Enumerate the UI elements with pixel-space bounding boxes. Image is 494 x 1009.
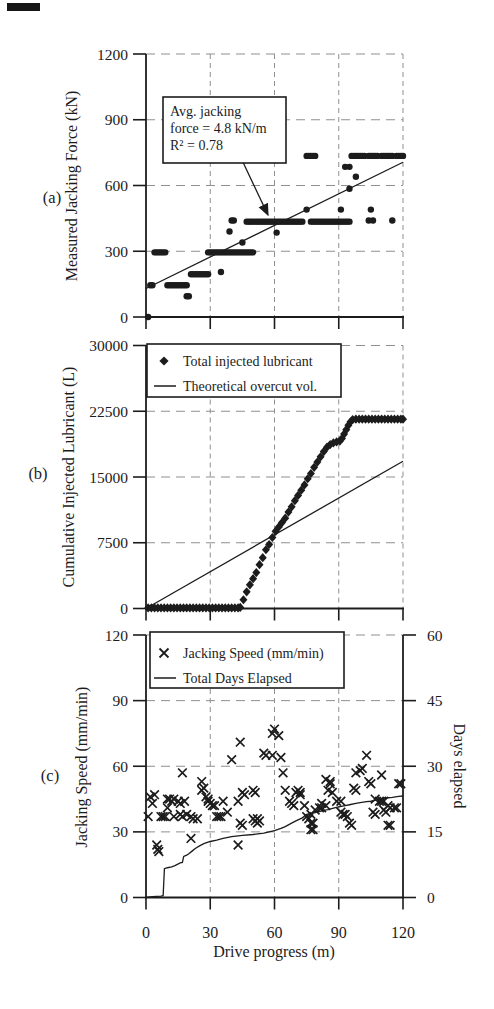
legend-b-item-2: Theoretical overcut vol. [183,379,317,394]
scan-artifact [7,3,40,11]
legend-b: Total injected lubricant Theoretical ove… [147,344,341,397]
panel-a-label: (a) [43,188,61,207]
annotation-line-1: Avg. jacking [170,104,241,119]
b-y-tick-label: 7500 [97,534,128,551]
c-y-tick-label: 120 [105,627,129,644]
a-y-tick-label: 300 [105,243,129,260]
x-axis-title: Drive progress (m) [213,943,335,961]
charts-layer: 0300600900120007500150002250030000030609… [89,46,443,941]
panel-c-label: (c) [41,766,59,785]
annotation-avg-jacking-force: Avg. jacking force = 4.8 kN/m R² = 0.78 [163,97,286,215]
a-y-tick-label: 0 [120,309,128,326]
c-right-axis-title: Days elapsed [450,724,468,809]
c-y-tick-label: 90 [113,692,129,709]
a-gridlines [146,54,403,317]
c-right-tick-label: 60 [427,627,443,644]
x-tick-label: 0 [142,924,150,941]
x-tick-label: 60 [267,924,283,941]
legend-b-item-1: Total injected lubricant [183,354,313,369]
x-tick-label: 120 [391,924,415,941]
b-y-tick-label: 15000 [89,469,128,486]
b-y-tick-label: 0 [120,600,128,617]
legend-c-item-2: Total Days Elapsed [183,671,292,686]
a-y-tick-label: 1200 [97,46,128,63]
x-tick-label: 90 [331,924,347,941]
annotation-line-2: force = 4.8 kN/m [170,121,267,136]
b-series-scatter-diamond [144,415,407,613]
panel-b-label: (b) [28,464,47,483]
figure: 0300600900120007500150002250030000030609… [0,0,494,1009]
c-y-tick-label: 60 [113,758,129,775]
a-y-tick-label: 900 [105,111,129,128]
figure-page: 0300600900120007500150002250030000030609… [0,0,494,1009]
legend-c-item-1: Jacking Speed (mm/min) [183,646,324,662]
b-y-tick-label: 30000 [89,337,128,354]
x-tick-label: 30 [202,924,218,941]
c-y-tick-label: 30 [113,823,129,840]
c-y-tick-label: 0 [120,889,128,906]
a-series-scatter-dot [145,153,406,320]
c-right-tick-label: 15 [427,823,443,840]
c-right-tick-label: 30 [427,758,443,775]
annotation-line-3: R² = 0.78 [170,138,223,153]
annotation-arrow [241,158,268,215]
c-right-tick-label: 45 [427,692,443,709]
c-y-axis-title: Jacking Speed (mm/min) [73,687,91,848]
legend-c: Jacking Speed (mm/min) Total Days Elapse… [150,632,344,688]
b-y-tick-label: 22500 [89,403,128,420]
a-y-tick-label: 600 [105,177,129,194]
c-right-tick-label: 0 [427,889,435,906]
b-y-axis-title: Cumulative Injected Lubricant (L) [60,367,78,588]
panel-a: 03006009001200 [97,46,406,330]
a-y-axis-title: Measured Jacking Force (kN) [63,91,81,282]
